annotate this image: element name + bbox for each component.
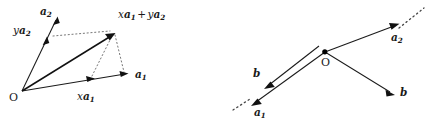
arrowhead-a2 — [53, 17, 60, 26]
label-origin-left: O — [9, 92, 18, 103]
label-a1-right: a1 — [254, 107, 266, 118]
label-a2-right-base: a — [391, 31, 398, 43]
arrowhead-a1-right — [251, 99, 262, 107]
label-a1-right-base: a — [254, 106, 261, 118]
arrowhead-xa1 — [86, 76, 95, 82]
vector-figure: a2 ya2 xa1+ya2 a1 xa1 O a2 a1 b b O — [0, 0, 427, 121]
label-xa1-base: a — [83, 90, 90, 102]
arrowhead-b-right — [386, 90, 396, 97]
left-diagram-canvas — [0, 0, 427, 121]
vector-line-a2-right — [325, 26, 394, 52]
label-b-right: b — [400, 87, 407, 98]
label-ya2-base: a — [19, 24, 26, 36]
dotted-extension-lower-left — [233, 99, 250, 110]
label-resultant: xa1+ya2 — [118, 9, 165, 20]
label-xa1: xa1 — [77, 91, 95, 102]
label-ya2-sub: 2 — [26, 29, 31, 38]
label-xa1-sub: 1 — [90, 95, 95, 104]
label-resultant-operator: + — [136, 8, 148, 20]
arrowhead-a2-right — [389, 23, 400, 30]
label-a1-sub: 1 — [142, 73, 147, 82]
vector-line-a1 — [22, 74, 125, 91]
vector-line-a1-right — [256, 52, 325, 102]
label-a1-right-sub: 1 — [261, 111, 266, 120]
label-resultant-base1: a — [124, 8, 131, 20]
dotted-line-ya2-to-resultant — [53, 31, 110, 36]
label-a1: a1 — [135, 69, 147, 80]
dotted-line-resultant-to-a1 — [115, 35, 124, 72]
label-a2-sub: 2 — [47, 10, 52, 19]
label-ya2: ya2 — [13, 25, 31, 36]
label-a2-base: a — [40, 5, 47, 17]
origin-dot-right — [322, 49, 327, 54]
label-a2-right: a2 — [391, 32, 403, 43]
label-origin-right: O — [321, 57, 330, 68]
vector-line-b-right — [325, 52, 390, 92]
label-a2-right-sub: 2 — [398, 36, 403, 45]
label-a1-base: a — [135, 68, 142, 80]
label-a2: a2 — [40, 6, 52, 17]
dotted-extension-upper-right — [399, 8, 424, 28]
arrowhead-ya2 — [43, 37, 50, 46]
vector-line-b-left — [269, 46, 319, 85]
label-b-left: b — [253, 68, 260, 79]
label-resultant-sub1: 1 — [131, 13, 136, 22]
arrowhead-b-left — [264, 82, 275, 90]
label-resultant-sub2: 2 — [160, 13, 165, 22]
